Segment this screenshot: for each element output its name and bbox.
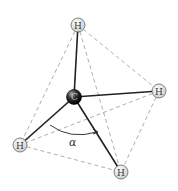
atom-label: H	[155, 87, 163, 97]
tetrahedron-svg: α H H H H C	[0, 0, 178, 191]
atom-h-top: H	[71, 18, 85, 32]
angle-arc	[50, 125, 97, 135]
edge-top-right	[78, 25, 159, 91]
atom-c: C	[67, 90, 82, 105]
bond-left	[20, 97, 74, 145]
bond-top	[74, 25, 78, 97]
atom-label: H	[117, 168, 125, 178]
edge-top-left	[20, 25, 78, 145]
atom-h-right: H	[152, 84, 166, 98]
bond-right	[74, 91, 159, 97]
atom-h-left: H	[13, 138, 27, 152]
edge-right-bottom	[121, 91, 159, 172]
tetrahedron-edges	[20, 25, 159, 172]
edge-top-bottom	[78, 25, 121, 172]
angle-label: α	[69, 136, 77, 149]
bonds	[20, 25, 159, 172]
atom-label: H	[16, 141, 24, 151]
atom-h-bottom: H	[114, 165, 128, 179]
atom-label: C	[71, 92, 78, 102]
methane-diagram: α H H H H C	[0, 0, 178, 191]
atom-label: H	[74, 21, 82, 31]
edge-right-left	[20, 91, 159, 145]
